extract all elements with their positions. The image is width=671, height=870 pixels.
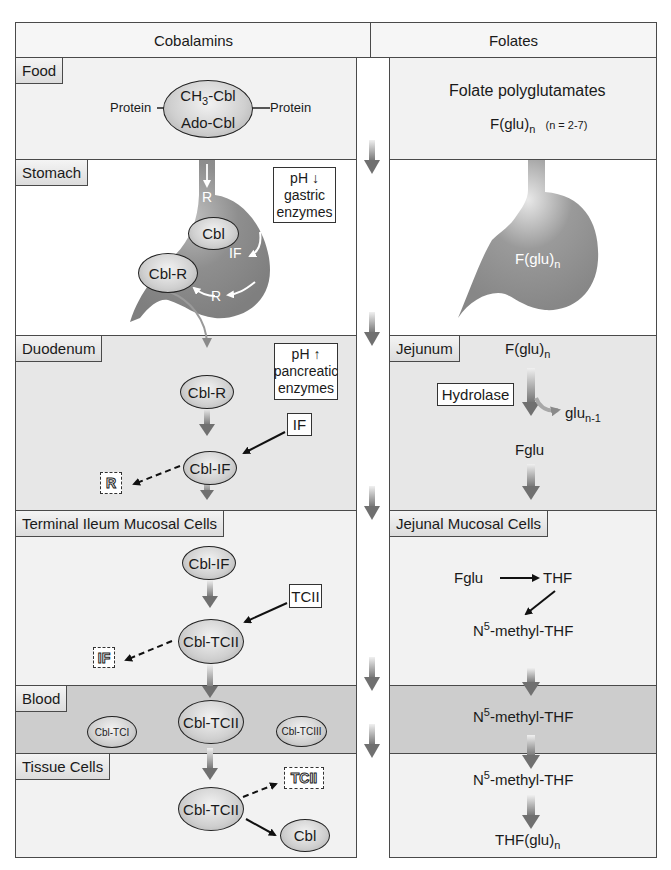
column-title-cobalamins: Cobalamins	[154, 32, 233, 49]
row-label-stomach: Stomach	[16, 160, 88, 186]
column-header-folates: Folates	[370, 22, 657, 58]
ileum-cbl-tcii-ellipse: Cbl-TCII	[178, 619, 244, 664]
ch3-cbl-label: CH3-Cbl	[180, 85, 235, 112]
folate-polyglutamates-label: Folate polyglutamates	[449, 82, 606, 100]
row-label-jejunal-mucosal-cells: Jejunal Mucosal Cells	[390, 511, 548, 537]
gastric-conditions-note: pH ↓ gastric enzymes	[273, 167, 336, 223]
row-label-tissue-cells: Tissue Cells	[16, 754, 110, 780]
released-r-box: R	[100, 472, 122, 494]
jejunal-fglu-label: Fglu	[454, 569, 483, 586]
row-label-duodenum: Duodenum	[16, 336, 102, 362]
hydrolase-box: Hydrolase	[437, 383, 514, 406]
stomach-r-top-label: R	[202, 189, 212, 205]
row-label-food: Food	[16, 58, 63, 84]
jejunal-n5-methyl-thf-label: N5-methyl-THF	[473, 620, 573, 639]
column-header-cobalamins: Cobalamins	[15, 22, 372, 58]
released-tcii-box: TCII	[284, 767, 324, 789]
column-title-folates: Folates	[489, 32, 538, 49]
center-flow-arrows	[364, 140, 380, 758]
panel-folate-food	[389, 57, 657, 160]
stomach-r-bottom-label: R	[211, 288, 221, 304]
ado-cbl-label: Ado-Cbl	[181, 112, 235, 134]
blood-cbl-tcii-ellipse: Cbl-TCII	[178, 700, 244, 744]
tcii-box: TCII	[289, 584, 322, 608]
stomach-cbl-r-ellipse: Cbl-R	[138, 253, 198, 293]
ileum-cbl-if-ellipse: Cbl-IF	[182, 546, 236, 580]
tissue-n5-methyl-thf-label: N5-methyl-THF	[473, 769, 573, 788]
blood-cbl-tci-ellipse: Cbl-TCI	[87, 716, 137, 748]
tissue-thf-glu-label: THF(glu)n	[495, 831, 560, 851]
jejunum-folate-formula: F(glu)n	[505, 340, 550, 360]
intrinsic-factor-box: IF	[287, 413, 312, 436]
protein-right-label: Protein	[270, 100, 311, 115]
duodenum-cbl-if-ellipse: Cbl-IF	[183, 451, 237, 485]
glu-n-1-label: glun-1	[565, 404, 601, 424]
panel-folate-stomach	[389, 159, 657, 336]
stomach-if-label: IF	[229, 245, 241, 261]
row-label-terminal-ileum: Terminal Ileum Mucosal Cells	[16, 511, 224, 537]
food-cobalamin-ellipse: CH3-Cbl Ado-Cbl	[163, 80, 253, 138]
released-if-box: IF	[93, 647, 115, 668]
jejunum-fglu-label: Fglu	[515, 441, 544, 458]
row-label-jejunum: Jejunum	[390, 336, 460, 362]
tissue-cbl-tcii-ellipse: Cbl-TCII	[178, 787, 244, 831]
protein-left-label: Protein	[110, 100, 151, 115]
duodenum-cbl-r-ellipse: Cbl-R	[180, 375, 234, 409]
folate-stomach-formula: F(glu)n	[515, 250, 560, 270]
pancreatic-conditions-note: pH ↑ pancreatic enzymes	[274, 343, 338, 400]
jejunal-thf-label: THF	[543, 569, 572, 586]
row-label-blood: Blood	[16, 686, 67, 712]
blood-cbl-tciii-ellipse: Cbl-TCIII	[276, 716, 327, 747]
tissue-cbl-ellipse: Cbl	[280, 819, 330, 852]
folate-formula-food: F(glu)n (n = 2-7)	[490, 115, 587, 135]
blood-n5-methyl-thf-label: N5-methyl-THF	[473, 706, 573, 725]
